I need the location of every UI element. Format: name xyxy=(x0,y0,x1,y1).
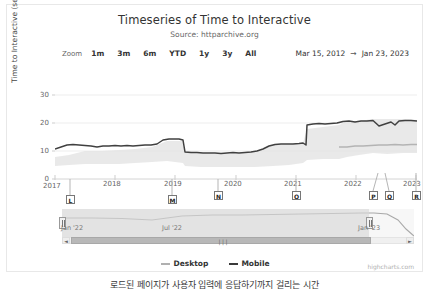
legend-item-desktop[interactable]: Desktop xyxy=(161,259,208,268)
flag-M[interactable]: M xyxy=(168,195,177,204)
highcharts-credits-link[interactable]: highcharts.com xyxy=(367,263,414,270)
navigator-track[interactable] xyxy=(62,209,414,237)
legend-item-mobile[interactable]: Mobile xyxy=(229,259,269,268)
navigator-label-mid: Jul '22 xyxy=(162,224,182,232)
flag-R[interactable]: R xyxy=(412,191,421,200)
flag-P[interactable]: P xyxy=(369,191,378,200)
legend-swatch-desktop xyxy=(161,263,170,265)
legend-label-desktop: Desktop xyxy=(173,259,208,268)
legend-swatch-mobile xyxy=(229,263,238,265)
flag-O[interactable]: O xyxy=(292,191,301,200)
navigator-label-left: Jan '22 xyxy=(61,224,83,232)
legend-label-mobile: Mobile xyxy=(241,259,269,268)
scrollbar-arrow-right-icon[interactable]: ► xyxy=(406,237,414,244)
flag-stems xyxy=(7,5,424,205)
navigator-label-right: Jan '23 xyxy=(358,224,380,232)
scrollbar-grip-icon: ∣∣∣ xyxy=(218,239,229,244)
highcharts-chart-container: Timeseries of Time to Interactive Source… xyxy=(6,4,423,272)
flag-N[interactable]: N xyxy=(214,191,223,200)
navigator-scrollbar[interactable]: ◄ ∣∣∣ ► xyxy=(62,237,414,244)
page-caption: 로드된 페이지가 사용자 입력에 응답하기까지 걸리는 시간 xyxy=(0,278,429,290)
legend: Desktop Mobile xyxy=(7,251,424,270)
navigator-selected-mask[interactable] xyxy=(62,209,369,237)
flag-Q[interactable]: Q xyxy=(385,191,394,200)
flag-series: L M N O P Q R xyxy=(7,5,424,205)
scrollbar-thumb[interactable]: ∣∣∣ xyxy=(71,237,371,244)
flag-L[interactable]: L xyxy=(66,195,75,204)
scrollbar-arrow-left-icon[interactable]: ◄ xyxy=(62,237,70,244)
